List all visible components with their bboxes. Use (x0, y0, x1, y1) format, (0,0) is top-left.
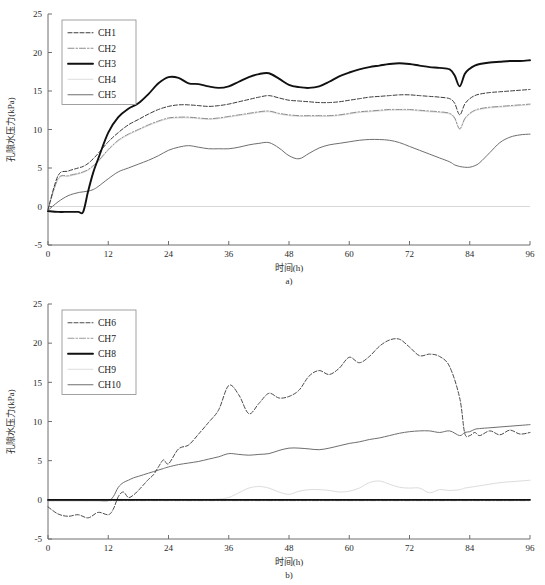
legend-label-ch9: CH9 (98, 365, 116, 375)
subfigure-label: a) (286, 276, 293, 286)
x-tick-label: 72 (405, 249, 414, 259)
x-tick-label: 72 (405, 543, 414, 553)
chart-panel-a: 01224364860728496-50510152025孔隙水压力(kPa)时… (0, 0, 545, 292)
y-tick-label: 15 (33, 86, 43, 96)
y-axis-title: 孔隙水压力(kPa) (5, 97, 16, 162)
chart-panel-b: 01224364860728496-50510152025孔隙水压力(kPa)时… (0, 292, 545, 585)
y-tick-label: 15 (33, 378, 43, 388)
x-tick-label: 84 (465, 249, 475, 259)
x-tick-label: 36 (224, 543, 234, 553)
y-tick-label: 20 (33, 48, 43, 58)
x-tick-label: 36 (224, 249, 234, 259)
x-tick-label: 24 (164, 249, 174, 259)
x-tick-label: 12 (104, 249, 113, 259)
series-line-ch9 (48, 480, 530, 499)
legend-label-ch6: CH6 (98, 318, 116, 328)
y-tick-label: 0 (38, 495, 43, 505)
x-axis-title: 时间(h) (275, 556, 304, 567)
legend-label-ch5: CH5 (98, 90, 116, 100)
y-tick-label: 0 (38, 202, 43, 212)
x-tick-label: 12 (104, 543, 113, 553)
x-tick-label: 60 (345, 543, 355, 553)
x-tick-label: 96 (526, 543, 536, 553)
y-tick-label: 5 (38, 456, 43, 466)
legend-label-ch3: CH3 (98, 59, 116, 69)
series-line-ch5 (48, 134, 530, 210)
y-tick-label: -5 (35, 534, 43, 544)
legend-label-ch2: CH2 (98, 44, 116, 54)
legend-label-ch10: CH10 (98, 380, 121, 390)
subfigure-label: b) (285, 570, 293, 580)
x-tick-label: 96 (526, 249, 536, 259)
y-tick-label: 10 (33, 125, 43, 135)
x-tick-label: 24 (164, 543, 174, 553)
x-tick-label: 48 (285, 543, 295, 553)
legend-label-ch4: CH4 (98, 75, 116, 85)
series-line-ch1 (48, 89, 530, 209)
series-line-ch4 (48, 105, 530, 210)
x-tick-label: 0 (46, 543, 51, 553)
x-tick-label: 60 (345, 249, 355, 259)
y-axis-title: 孔隙水压力(kPa) (5, 389, 16, 454)
legend-label-ch1: CH1 (98, 28, 116, 38)
series-line-ch2 (48, 104, 530, 209)
legend-label-ch7: CH7 (98, 334, 116, 344)
x-tick-label: 0 (46, 249, 51, 259)
chart-svg-b: 01224364860728496-50510152025孔隙水压力(kPa)时… (0, 292, 545, 585)
x-tick-label: 48 (285, 249, 295, 259)
y-tick-label: 20 (33, 338, 43, 348)
y-tick-label: 25 (33, 9, 43, 19)
y-tick-label: 25 (33, 299, 43, 309)
y-tick-label: -5 (35, 240, 43, 250)
chart-svg-a: 01224364860728496-50510152025孔隙水压力(kPa)时… (0, 0, 545, 292)
y-tick-label: 5 (38, 163, 43, 173)
x-tick-label: 84 (465, 543, 475, 553)
x-axis-title: 时间(h) (275, 262, 304, 273)
y-tick-label: 10 (33, 417, 43, 427)
legend-label-ch8: CH8 (98, 349, 116, 359)
pore-water-pressure-figure: 01224364860728496-50510152025孔隙水压力(kPa)时… (0, 0, 545, 585)
